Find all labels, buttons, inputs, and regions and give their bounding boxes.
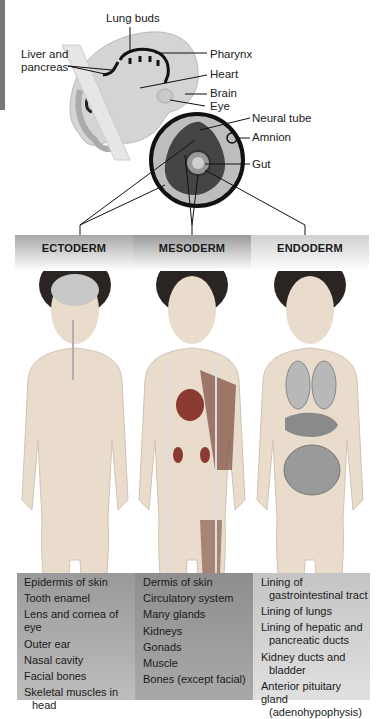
list-item: Outer ear — [24, 638, 135, 651]
label-liver-pancreas-1: Liver and — [21, 48, 68, 61]
list-item: Muscle — [143, 657, 253, 670]
list-item: Lining of hepatic andpancreatic ducts — [261, 621, 370, 647]
list-item: Lining ofgastrointestinal tract — [261, 576, 370, 602]
label-liver-pancreas-2: pancreas — [21, 61, 68, 74]
list-item: Many glands — [143, 608, 253, 621]
list-item: Epidermis of skin — [24, 576, 135, 589]
list-item: Dermis of skin — [143, 576, 253, 589]
endoderm-header: ENDODERM — [251, 235, 369, 271]
list-item: Anterior pituitary gland(adenohypophysis… — [261, 680, 370, 719]
list-item: Kidney ducts andbladder — [261, 651, 370, 677]
label-neural-tube: Neural tube — [252, 112, 311, 125]
list-item: Lens and cornea of eye — [24, 608, 135, 634]
list-item: Circulatory system — [143, 592, 253, 605]
label-gut: Gut — [252, 158, 271, 171]
list-item: Nasal cavity — [24, 654, 135, 667]
list-item: Kidneys — [143, 625, 253, 638]
label-lung-buds: Lung buds — [106, 12, 160, 25]
list-item: Lining of lungs — [261, 605, 370, 618]
list-item: Skeletal muscles inhead — [24, 686, 135, 712]
cross-section-illustration — [151, 114, 243, 206]
list-item: Gonads — [143, 641, 253, 654]
mesoderm-derivatives-list: Dermis of skin Circulatory system Many g… — [135, 573, 253, 700]
list-item: Tooth enamel — [24, 592, 135, 605]
list-item: Bones (except facial) — [143, 673, 253, 686]
ectoderm-header: ECTODERM — [15, 235, 133, 271]
label-heart: Heart — [210, 68, 238, 81]
label-amnion: Amnion — [252, 131, 291, 144]
label-brain: Brain — [210, 87, 237, 100]
endoderm-derivatives-list: Lining ofgastrointestinal tract Lining o… — [253, 573, 370, 700]
ectoderm-derivatives-list: Epidermis of skin Tooth enamel Lens and … — [17, 573, 135, 700]
list-item: Facial bones — [24, 670, 135, 683]
mesoderm-header: MESODERM — [133, 235, 251, 271]
label-eye: Eye — [210, 100, 230, 113]
label-pharynx: Pharynx — [210, 48, 252, 61]
